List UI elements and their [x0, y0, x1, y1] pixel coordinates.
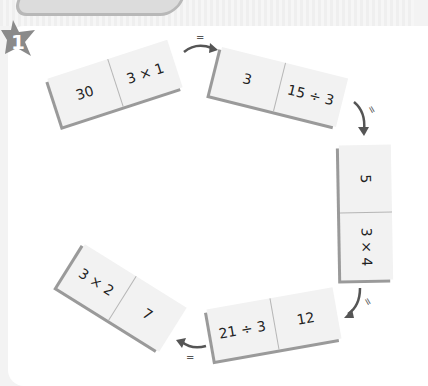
connector-4-label: =	[186, 352, 194, 363]
domino-4-left: 21 ÷ 3	[206, 298, 278, 360]
header-tab	[12, 0, 190, 16]
domino-4-right: 12	[269, 287, 342, 349]
connector-1-label: =	[196, 32, 204, 43]
domino-3-bottom-text: 3 × 4	[358, 227, 375, 266]
exercise-number: 1	[11, 30, 25, 54]
domino-3-top-text: 5	[357, 174, 373, 183]
domino-3: 5 3 × 4	[339, 145, 393, 281]
domino-3-bottom: 3 × 4	[340, 212, 393, 281]
domino-3-top: 5	[339, 145, 392, 213]
